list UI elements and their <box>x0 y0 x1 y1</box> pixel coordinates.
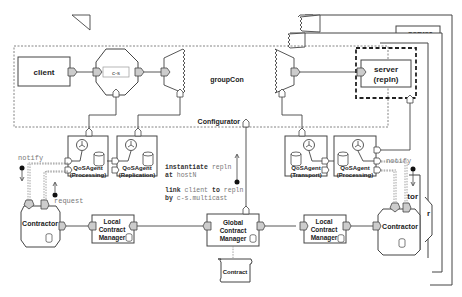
database-icon <box>399 239 405 248</box>
database-icon <box>46 234 52 243</box>
database-icon <box>338 152 348 166</box>
svg-text:QoSAgent: QoSAgent <box>340 165 369 171</box>
svg-text:Contract: Contract <box>220 227 248 234</box>
database-icon <box>338 235 344 243</box>
notify-arrow-icon <box>20 170 24 181</box>
svg-text:byc-s.multicast: byc-s.multicast <box>165 195 228 202</box>
contract-document: Contract <box>218 259 252 282</box>
contractor-right: Contractor <box>373 203 420 255</box>
notify-event-dot <box>20 166 25 171</box>
cs-out-port <box>135 68 144 76</box>
global-contract-manager: Global Contract Manager <box>203 206 265 246</box>
contractor-left: Contractor <box>21 200 66 247</box>
groupcon-right-port <box>291 68 300 76</box>
svg-text:(Replication): (Replication) <box>119 172 155 178</box>
database-icon <box>94 152 104 166</box>
contractor-left-label: Contractor <box>22 220 58 227</box>
local-contract-manager-left: Local Contract Manager <box>88 215 137 243</box>
svg-text:QoSAgent: QoSAgent <box>122 165 151 171</box>
database-icon <box>291 152 301 166</box>
svg-text:Manager: Manager <box>220 235 247 243</box>
configurator-label: Configurator <box>198 118 241 126</box>
client-label: client <box>34 68 55 77</box>
local-contract-manager-right: Local Contract Manager <box>300 215 351 243</box>
instantiate-arrow-icon <box>235 154 239 180</box>
cs-label: c-s <box>112 70 120 76</box>
svg-text:(Processing): (Processing) <box>70 172 106 178</box>
qos-agent-processing-left: QoSAgent (Processing) <box>65 128 108 178</box>
svg-text:Local: Local <box>104 218 121 225</box>
configurator-port <box>243 119 249 127</box>
instantiate-event-dot <box>235 180 240 185</box>
svg-text:Manager: Manager <box>311 234 338 242</box>
database-icon <box>250 235 256 243</box>
back-contractor-label: tor <box>407 192 418 201</box>
left-notify-label: notify <box>18 154 43 162</box>
back-contractor-label-2: r <box>427 209 430 218</box>
architecture-diagram: server tor r groupCon Configurator clien… <box>0 0 462 297</box>
svg-text:QoSAgent: QoSAgent <box>73 165 102 171</box>
qos-agent-transport: QoSAgent (Transport) <box>285 128 329 178</box>
contractor-right-label: Contractor <box>382 223 418 230</box>
qos-agent-replication: QoSAgent (Replication) <box>107 128 157 178</box>
left-request-label: request <box>54 197 83 205</box>
server-label-1: server <box>374 65 398 74</box>
svg-text:(Processing): (Processing) <box>337 172 373 178</box>
groupcon-label: groupCon <box>210 76 243 84</box>
svg-text:Global: Global <box>223 219 243 226</box>
contract-label: Contract <box>223 269 248 275</box>
request-event-dot <box>53 193 58 198</box>
svg-text:athostN: athostN <box>165 172 196 179</box>
client-port <box>68 68 77 76</box>
database-icon <box>143 152 153 166</box>
svg-text:instantiaterepln: instantiaterepln <box>165 164 232 171</box>
database-icon <box>126 234 132 242</box>
svg-text:(Transport): (Transport) <box>290 172 322 178</box>
configurator-instructions: instantiaterepln athostN linkclienttorep… <box>165 164 243 202</box>
server-label-2: (repln) <box>374 75 399 84</box>
request-arrow-icon <box>53 182 57 192</box>
svg-text:Contract: Contract <box>99 226 127 233</box>
svg-text:Contract: Contract <box>311 226 339 233</box>
svg-text:QoSAgent: QoSAgent <box>291 165 320 171</box>
qos-agent-processing-right: QoSAgent (Processing) <box>329 136 381 178</box>
svg-text:Manager: Manager <box>99 234 126 242</box>
svg-text:linkclienttorepln: linkclienttorepln <box>165 187 243 194</box>
svg-text:Local: Local <box>316 218 333 225</box>
notify-event-dot <box>411 167 416 172</box>
